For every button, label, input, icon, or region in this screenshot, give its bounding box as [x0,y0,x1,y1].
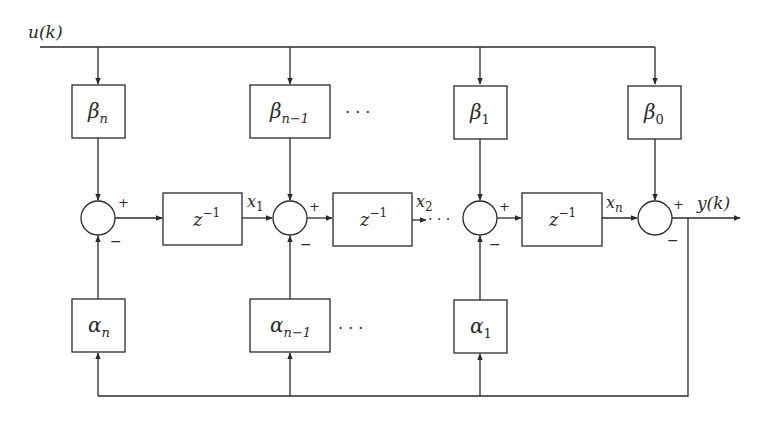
beta-block-1: β1 [454,86,507,139]
minus-sign: − [667,232,679,248]
beta-block-n-1: βn−1 [250,85,330,138]
plus-sign: + [673,197,684,212]
minus-sign: − [489,236,501,252]
delay-block-3: z−1 [522,193,602,246]
forward-ellipsis: · · · [428,211,450,227]
block-diagram: u(k) βn βn−1 · · · β1 β0 + − + − + − + −… [0,0,765,424]
state-label-xn: xn [606,193,623,215]
plus-sign: + [499,199,510,214]
output-label: y(k) [696,193,730,213]
summing-junction-3 [463,201,497,235]
state-label-x1: x1 [247,192,264,214]
plus-sign: + [309,199,320,214]
alpha-ellipsis: · · · [338,319,363,338]
alpha-block-n-1: αn−1 [250,299,330,352]
beta-block-n: βn [72,85,125,138]
summing-junction-1 [81,201,115,235]
summing-junction-2 [273,201,307,235]
alpha-block-n: αn [72,299,125,352]
plus-sign: + [118,195,129,210]
delay-block-1: z−1 [163,193,242,245]
beta-ellipsis: · · · [345,103,370,122]
input-label: u(k) [28,22,63,42]
delay-block-2: z−1 [333,193,412,246]
beta-block-0: β0 [628,86,681,139]
minus-sign: − [300,236,312,252]
alpha-block-1: α1 [454,300,507,353]
summing-junction-4 [638,201,672,235]
minus-sign: − [110,233,122,249]
